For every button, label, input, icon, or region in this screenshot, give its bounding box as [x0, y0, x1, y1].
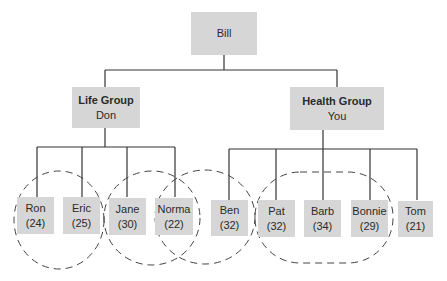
member-node-ben: Ben (32): [211, 200, 248, 236]
group-title: Life Group: [78, 93, 134, 108]
member-node-bonnie: Bonnie (29): [351, 200, 388, 237]
member-name: Ben: [220, 203, 240, 218]
root-node-bill: Bill: [191, 12, 257, 55]
group-leader: You: [328, 109, 347, 124]
member-age: (32): [220, 218, 240, 233]
group-title: Health Group: [302, 94, 372, 109]
member-name: Tom: [405, 204, 426, 219]
member-name: Ron: [25, 201, 45, 216]
member-node-jane: Jane (30): [109, 198, 146, 235]
member-name: Norma: [157, 202, 190, 217]
member-node-barb: Barb (34): [304, 200, 341, 237]
member-name: Jane: [116, 202, 140, 217]
member-node-eric: Eric (25): [63, 197, 100, 234]
member-node-pat: Pat (32): [258, 200, 295, 237]
root-label: Bill: [217, 26, 232, 41]
member-age: (22): [164, 217, 184, 232]
member-node-ron: Ron (24): [17, 197, 54, 234]
member-age: (32): [267, 219, 287, 234]
member-name: Bonnie: [352, 204, 386, 219]
member-age: (34): [313, 219, 333, 234]
member-age: (30): [118, 217, 138, 232]
member-node-tom: Tom (21): [398, 201, 433, 237]
member-name: Barb: [311, 204, 334, 219]
group-node-health: Health Group You: [290, 87, 384, 130]
member-age: (24): [26, 216, 46, 231]
member-name: Pat: [268, 204, 285, 219]
member-age: (21): [406, 219, 426, 234]
group-leader: Don: [96, 108, 116, 123]
member-name: Eric: [72, 201, 91, 216]
group-node-life: Life Group Don: [72, 87, 140, 128]
member-node-norma: Norma (22): [155, 198, 193, 235]
member-age: (29): [360, 219, 380, 234]
member-age: (25): [72, 216, 92, 231]
